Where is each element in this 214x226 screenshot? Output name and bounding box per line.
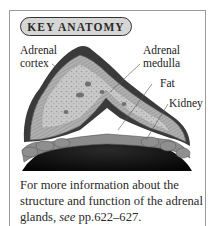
adrenal-cortex-label: Adrenal cortex xyxy=(20,44,57,69)
adrenal-medulla-label: Adrenal medulla xyxy=(143,44,180,69)
adrenal-medulla-label-line1: Adrenal xyxy=(143,44,180,57)
caption: For more information about the structure… xyxy=(20,177,206,225)
adrenal-cortex-label-line2: cortex xyxy=(20,57,57,70)
adrenal-cortex-label-line1: Adrenal xyxy=(20,44,57,57)
fat-label: Fat xyxy=(160,77,175,90)
page-reference: pp.622–627. xyxy=(75,210,141,224)
kidney-label: Kidney xyxy=(169,97,203,110)
key-anatomy-badge: KEY ANATOMY xyxy=(20,17,132,36)
adrenal-medulla-label-line2: medulla xyxy=(143,57,180,70)
caption-see: see xyxy=(59,210,75,224)
